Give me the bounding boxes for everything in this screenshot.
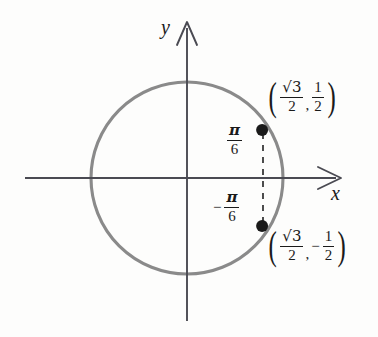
unit-circle-figure: y x π 6 − π 6 ( √3 2 ,: [0, 0, 378, 337]
fraction-denominator: 2: [312, 98, 324, 115]
fraction-denominator: 6: [229, 141, 241, 158]
minus-sign: −: [213, 200, 223, 215]
x-axis-label: x: [331, 183, 340, 203]
close-paren: ): [338, 230, 346, 263]
fraction-sqrt3-over-2: √3 2: [280, 80, 303, 114]
fraction-sqrt3-over-2: √3 2: [280, 229, 303, 263]
fraction-pi-over-6: π 6: [227, 123, 242, 157]
fraction-1-over-2: 1 2: [323, 229, 335, 263]
comma-separator: ,: [304, 247, 311, 263]
open-paren: (: [269, 81, 277, 114]
comma-separator: ,: [304, 98, 311, 114]
fraction-numerator: π: [227, 123, 242, 141]
fraction-pi-over-6: π 6: [224, 190, 239, 224]
fraction-1-over-2: 1 2: [312, 80, 324, 114]
angle-label-negative-pi-over-6: − π 6: [213, 190, 240, 224]
open-paren: (: [269, 230, 277, 263]
fraction-numerator: 1: [312, 80, 324, 98]
minus-sign: −: [311, 239, 321, 254]
fraction-numerator: π: [224, 190, 239, 208]
fraction-denominator: 2: [286, 247, 298, 264]
fraction-denominator: 6: [226, 208, 238, 225]
coordinate-label-bottom: ( √3 2 , − 1 2 ): [266, 229, 348, 263]
angle-label-pi-over-6: π 6: [226, 122, 243, 157]
point-marker-pi-over-6[interactable]: [256, 124, 268, 136]
close-paren: ): [327, 81, 335, 114]
coordinate-label-top: ( √3 2 , 1 2 ): [266, 80, 338, 114]
fraction-numerator: √3: [280, 229, 303, 247]
diagram-canvas: [0, 0, 378, 337]
fraction-numerator: √3: [280, 80, 303, 98]
y-axis-label: y: [161, 17, 170, 37]
fraction-denominator: 2: [286, 98, 298, 115]
fraction-denominator: 2: [323, 247, 335, 264]
fraction-numerator: 1: [323, 229, 335, 247]
